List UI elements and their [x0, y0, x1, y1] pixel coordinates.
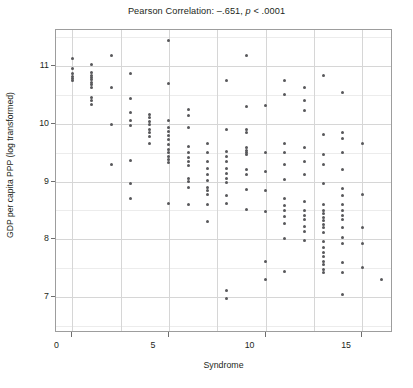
data-point — [167, 134, 170, 137]
gridline-horizontal-minor — [56, 326, 391, 327]
data-point — [245, 208, 248, 211]
data-point — [187, 203, 190, 206]
data-point — [361, 193, 364, 196]
data-point — [283, 215, 286, 218]
data-point — [206, 203, 209, 206]
data-point — [129, 159, 132, 162]
data-point — [303, 99, 306, 102]
data-point — [303, 200, 306, 203]
data-point — [341, 137, 344, 140]
gridline-horizontal — [56, 66, 391, 67]
data-point — [322, 226, 325, 229]
chart-title-prefix: Pearson Correlation: –.651, — [128, 6, 246, 16]
gridline-vertical — [314, 30, 315, 331]
gridline-vertical — [169, 30, 170, 331]
x-tick-mark — [168, 332, 169, 337]
data-point — [303, 209, 306, 212]
data-point — [283, 209, 286, 212]
data-point — [245, 153, 248, 156]
data-point — [264, 278, 267, 281]
data-point — [264, 104, 267, 107]
data-point — [264, 151, 267, 154]
data-point — [129, 119, 132, 122]
gridline-horizontal-minor — [56, 37, 391, 38]
data-point — [283, 142, 286, 145]
data-point — [283, 204, 286, 207]
data-point — [225, 79, 228, 82]
data-point — [341, 151, 344, 154]
scatter-plot-figure: Pearson Correlation: –.651, p < .0001 GD… — [0, 0, 413, 388]
y-axis-title-text: GDP per capita PPP (log transformed) — [5, 92, 15, 238]
data-point — [341, 236, 344, 239]
x-axis-title: Syndrome — [55, 360, 392, 370]
data-point — [90, 103, 93, 106]
data-point — [303, 173, 306, 176]
data-point — [303, 218, 306, 221]
x-tick-label: 15 — [331, 340, 361, 350]
y-tick-label: 8 — [15, 233, 49, 243]
data-point — [322, 231, 325, 234]
data-point — [225, 194, 228, 197]
data-point — [206, 193, 209, 196]
data-point — [148, 142, 151, 145]
data-point — [187, 164, 190, 167]
data-point — [110, 123, 113, 126]
data-point — [303, 239, 306, 242]
data-point — [341, 91, 344, 94]
x-tick-mark — [265, 332, 266, 337]
data-point — [225, 289, 228, 292]
data-point — [264, 260, 267, 263]
chart-title-suffix: < .0001 — [251, 6, 285, 16]
data-point — [341, 187, 344, 190]
data-point — [322, 163, 325, 166]
data-point — [167, 130, 170, 133]
data-point — [303, 146, 306, 149]
data-point — [148, 135, 151, 138]
y-tick-label: 9 — [15, 176, 49, 186]
gridline-vertical — [362, 30, 363, 331]
x-tick-label: 0 — [41, 340, 71, 350]
gridline-vertical — [266, 30, 267, 331]
data-point — [341, 203, 344, 206]
data-point — [206, 173, 209, 176]
data-point — [361, 226, 364, 229]
data-point — [322, 263, 325, 266]
data-point — [129, 111, 132, 114]
data-point — [322, 251, 325, 254]
plot-area — [55, 29, 392, 332]
data-point — [206, 167, 209, 170]
data-point — [245, 188, 248, 191]
data-point — [187, 160, 190, 163]
data-point — [322, 219, 325, 222]
gridline-horizontal — [56, 239, 391, 240]
data-point — [264, 170, 267, 173]
data-point — [167, 143, 170, 146]
data-point — [129, 197, 132, 200]
x-tick-label: 10 — [235, 340, 265, 350]
data-point — [129, 182, 132, 185]
data-point — [225, 155, 228, 158]
data-point — [245, 168, 248, 171]
gridline-horizontal — [56, 297, 391, 298]
data-point — [206, 189, 209, 192]
data-point — [167, 202, 170, 205]
y-axis-title: GDP per capita PPP (log transformed) — [2, 0, 18, 330]
data-point — [225, 172, 228, 175]
data-point — [167, 119, 170, 122]
data-point — [245, 54, 248, 57]
gridline-vertical — [121, 30, 122, 331]
data-point — [206, 142, 209, 145]
gridline-horizontal-minor — [56, 95, 391, 96]
data-point — [341, 261, 344, 264]
data-point — [129, 124, 132, 127]
data-point — [341, 214, 344, 217]
data-point — [206, 151, 209, 154]
y-tick-label: 7 — [15, 291, 49, 301]
data-point — [187, 145, 190, 148]
gridline-vertical — [217, 30, 218, 331]
data-point — [71, 57, 74, 60]
data-point — [341, 271, 344, 274]
data-point — [283, 178, 286, 181]
data-point — [148, 123, 151, 126]
data-point — [264, 210, 267, 213]
